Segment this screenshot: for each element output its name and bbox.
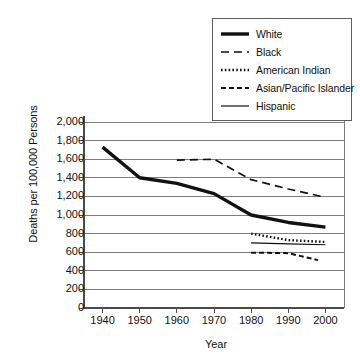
y-axis-title: Deaths per 100,000 Persons bbox=[27, 79, 39, 269]
legend-item-american-indian: American Indian bbox=[220, 61, 345, 79]
legend-item-black: Black bbox=[220, 43, 345, 61]
legend-swatch-icon bbox=[220, 100, 250, 112]
x-axis-title: Year bbox=[75, 338, 357, 350]
legend-item-label: Asian/Pacific Islander bbox=[256, 82, 354, 94]
legend-swatch-icon bbox=[220, 64, 250, 76]
chart-legend: WhiteBlackAmerican IndianAsian/Pacific I… bbox=[212, 18, 352, 121]
legend-item-label: American Indian bbox=[256, 64, 330, 76]
legend-item-asian-pacific-islander: Asian/Pacific Islander bbox=[220, 79, 345, 97]
chart-figure: 02004006008001,0001,2001,4001,6001,8002,… bbox=[0, 0, 360, 364]
legend-item-label: Black bbox=[256, 46, 281, 58]
legend-swatch-icon bbox=[220, 46, 250, 58]
legend-item-label: Hispanic bbox=[256, 100, 295, 112]
legend-item-white: White bbox=[220, 25, 345, 43]
legend-item-label: White bbox=[256, 28, 282, 40]
legend-swatch-icon bbox=[220, 82, 250, 94]
legend-swatch-icon bbox=[220, 28, 250, 40]
x-tick-label: 2000 bbox=[302, 314, 348, 326]
legend-item-hispanic: Hispanic bbox=[220, 97, 345, 115]
